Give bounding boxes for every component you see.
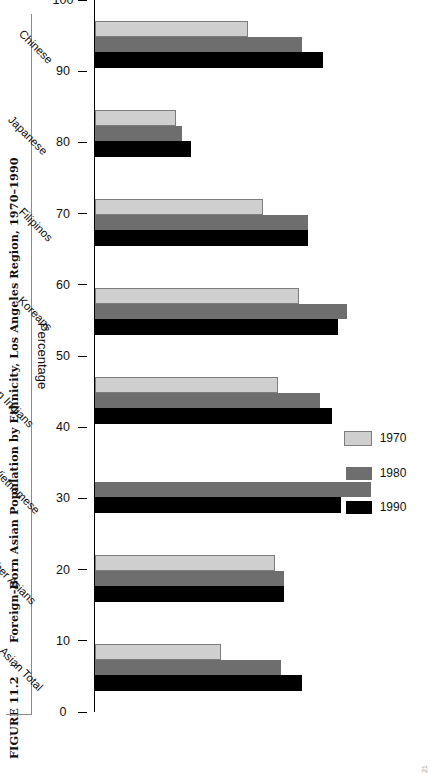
axis-tick-label: 90 (46, 64, 80, 78)
axis-tick-label: 40 (46, 420, 80, 434)
bar-groups: ChineseJapaneseFilipinosKoreansAsian Ind… (96, 0, 396, 712)
axis-tick-label: 100 (46, 0, 80, 7)
axis-tick-label: 10 (46, 634, 80, 648)
axis-tick-label: 30 (46, 491, 80, 505)
bar-group: Japanese (96, 89, 396, 178)
bar-group: Chinese (96, 0, 396, 89)
bar-1980[interactable] (96, 215, 309, 231)
bar-1970[interactable] (96, 110, 177, 126)
bar-1970[interactable] (96, 644, 222, 660)
bar-1990[interactable] (96, 319, 339, 335)
axis-tick-label: 0 (46, 705, 80, 719)
value-axis-title: Percentage (35, 0, 50, 712)
bar-1980[interactable] (96, 304, 348, 320)
bar-1970[interactable] (96, 377, 279, 393)
axis-tick-label: 20 (46, 563, 80, 577)
bar-1980[interactable] (96, 571, 285, 587)
bar-1970[interactable] (96, 555, 276, 571)
value-axis-ticks: 0102030405060708090100 (78, 0, 94, 712)
bar-chart: 197019801990 ChineseJapaneseFilipinosKor… (36, 0, 426, 712)
bar-group: Vietnamese (96, 445, 396, 534)
bar-1980[interactable] (96, 37, 303, 53)
bar-1990[interactable] (96, 675, 303, 691)
vertical-rule (31, 14, 32, 714)
bar-1970[interactable] (96, 199, 264, 215)
bar-group: Asian Indians (96, 356, 396, 445)
bar-1970[interactable] (96, 288, 300, 304)
bar-1990[interactable] (96, 141, 192, 157)
axis-tick-label: 50 (46, 349, 80, 363)
bar-1990[interactable] (96, 408, 333, 424)
bar-1980[interactable] (96, 126, 183, 142)
bar-group: Filipinos (96, 178, 396, 267)
bar-1990[interactable] (96, 586, 285, 602)
bar-1980[interactable] (96, 660, 282, 676)
figure-number: FIGURE 11.2 (7, 676, 21, 759)
bar-1970[interactable] (96, 21, 249, 37)
axis-tick-label: 80 (46, 135, 80, 149)
page-mark: 21 (421, 765, 428, 773)
bar-1980[interactable] (96, 393, 321, 409)
bar-1990[interactable] (96, 497, 342, 513)
bar-group: Asian Total (96, 623, 396, 712)
bar-group: Koreans (96, 267, 396, 356)
horizontal-rule (6, 714, 32, 715)
bar-group: Other Asians (96, 534, 396, 623)
axis-tick-label: 60 (46, 278, 80, 292)
value-axis-line (94, 0, 96, 712)
bar-1980[interactable] (96, 482, 372, 498)
bar-1990[interactable] (96, 230, 309, 246)
bar-1990[interactable] (96, 52, 324, 68)
axis-tick-label: 70 (46, 207, 80, 221)
